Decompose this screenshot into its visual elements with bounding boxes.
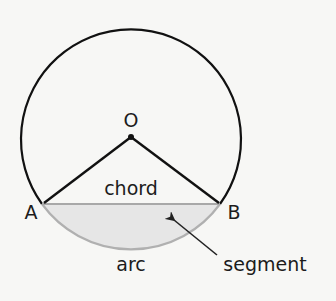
center-label: O [124, 109, 139, 131]
point-b-label: B [227, 201, 240, 223]
point-a-label: A [25, 201, 38, 223]
chord-label: chord [104, 177, 158, 199]
circle-diagram: O A B chord arc segment [0, 0, 336, 301]
segment-label: segment [223, 253, 306, 275]
segment-region [42, 204, 220, 249]
center-point [128, 134, 134, 140]
arc-label: arc [116, 253, 145, 275]
